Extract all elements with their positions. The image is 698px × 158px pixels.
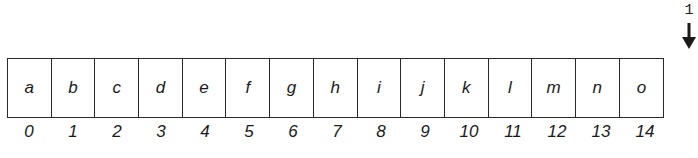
index-label: 8 (359, 122, 403, 142)
array-cell: i (358, 59, 402, 117)
array-cell: h (314, 59, 358, 117)
array-cell: f (226, 59, 270, 117)
index-label: 11 (491, 122, 535, 142)
index-label: 2 (95, 122, 139, 142)
array-cell: g (270, 59, 314, 117)
index-label: 0 (7, 122, 51, 142)
index-label: 1 (51, 122, 95, 142)
array-cell: m (532, 59, 576, 117)
pointer-marker: 1 (680, 2, 698, 49)
index-label: 4 (183, 122, 227, 142)
index-labels: 0 1 2 3 4 5 6 7 8 9 10 11 12 13 14 (7, 122, 667, 142)
array-cell: e (183, 59, 227, 117)
index-label: 3 (139, 122, 183, 142)
index-label: 12 (535, 122, 579, 142)
array-cell: n (576, 59, 620, 117)
array-cell: d (139, 59, 183, 117)
index-label: 5 (227, 122, 271, 142)
index-label: 9 (403, 122, 447, 142)
index-label: 6 (271, 122, 315, 142)
index-label: 13 (579, 122, 623, 142)
array-cell: o (620, 59, 664, 117)
array-boxes: a b c d e f g h i j k l m n o (7, 58, 664, 118)
down-arrow-icon (682, 23, 696, 49)
array-cell: j (401, 59, 445, 117)
array-cell: c (95, 59, 139, 117)
array-cell: a (8, 59, 52, 117)
array-cell: l (489, 59, 533, 117)
array-cell: b (52, 59, 96, 117)
index-label: 7 (315, 122, 359, 142)
array-cell: k (445, 59, 489, 117)
index-label: 10 (447, 122, 491, 142)
pointer-label: 1 (680, 2, 698, 19)
index-label: 14 (623, 122, 667, 142)
